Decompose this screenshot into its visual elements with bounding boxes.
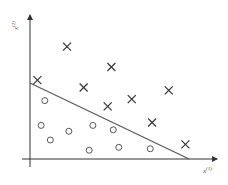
- circle-point: [147, 146, 153, 152]
- cross-point: [33, 76, 41, 84]
- x-axis-label: x(1): [202, 166, 212, 175]
- cross-point: [107, 63, 115, 71]
- cross-point: [181, 140, 189, 148]
- cross-point: [63, 43, 71, 51]
- classification-diagram: x(2) x(1): [0, 0, 228, 185]
- circle-point: [86, 147, 92, 153]
- cross-point: [165, 86, 173, 94]
- y-axis-label: x(2): [11, 21, 20, 31]
- circle-point: [47, 137, 53, 143]
- cross-point: [128, 95, 136, 103]
- cross-point: [148, 119, 156, 127]
- circle-point: [42, 98, 48, 104]
- cross-point: [104, 102, 112, 110]
- circle-point: [116, 144, 122, 150]
- data-points: [33, 43, 189, 154]
- circle-point: [90, 122, 96, 128]
- circle-point: [38, 122, 44, 128]
- circle-point: [66, 128, 72, 134]
- cross-point: [80, 83, 88, 91]
- circle-point: [110, 127, 116, 133]
